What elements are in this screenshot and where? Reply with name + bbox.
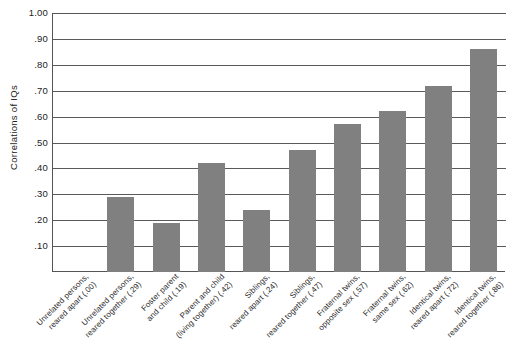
bar bbox=[470, 49, 497, 272]
y-tick-label: .50 bbox=[14, 138, 48, 148]
x-axis-category-labels: Unrelated persons,reared apart (.00)Unre… bbox=[0, 272, 514, 354]
bar bbox=[289, 150, 316, 272]
correlations-of-iqs-bar-chart: Correlations of IQs 1.00.90.80.70.60.50.… bbox=[0, 0, 514, 354]
bar bbox=[198, 163, 225, 272]
y-tick-label: 1.00 bbox=[14, 8, 48, 18]
y-tick-label: .70 bbox=[14, 86, 48, 96]
bar bbox=[334, 124, 361, 272]
bar bbox=[153, 223, 180, 272]
y-tick-label: .40 bbox=[14, 163, 48, 173]
bars-group bbox=[53, 13, 506, 272]
y-tick-label: .10 bbox=[14, 241, 48, 251]
bar bbox=[243, 210, 270, 272]
y-tick-label: .60 bbox=[14, 112, 48, 122]
y-tick-label: .90 bbox=[14, 34, 48, 44]
bar bbox=[379, 111, 406, 272]
y-tick-label: .30 bbox=[14, 189, 48, 199]
bar bbox=[107, 197, 134, 272]
bar bbox=[425, 86, 452, 272]
plot-area bbox=[52, 13, 505, 272]
y-tick-label: .80 bbox=[14, 60, 48, 70]
y-tick-label: .20 bbox=[14, 215, 48, 225]
